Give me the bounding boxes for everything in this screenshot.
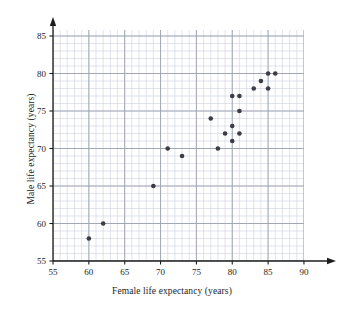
plot-area: 556065707580859055606570758085 (0, 0, 344, 315)
data-point (223, 131, 228, 136)
data-point (165, 146, 170, 151)
y-tick-label: 60 (37, 219, 47, 229)
scatter-chart: 556065707580859055606570758085 Female li… (0, 0, 344, 315)
x-tick-label: 60 (84, 267, 94, 277)
y-tick-label: 65 (37, 181, 47, 191)
data-point (230, 94, 235, 99)
data-point (180, 154, 185, 159)
x-axis-title: Female life expectancy (years) (0, 286, 344, 296)
x-tick-label: 80 (228, 267, 238, 277)
y-tick-label: 85 (37, 31, 47, 41)
major-gridlines (53, 29, 304, 262)
y-tick-label: 80 (37, 69, 47, 79)
data-point (216, 146, 221, 151)
y-tick-label: 70 (37, 144, 47, 154)
y-axis-title: Male life expectancy (years) (26, 49, 36, 249)
axis-lines (50, 17, 336, 264)
data-point (273, 71, 278, 76)
y-tick-label: 75 (37, 106, 47, 116)
x-tick-label: 75 (192, 267, 202, 277)
data-point (230, 124, 235, 129)
data-point (87, 236, 92, 241)
data-point (259, 79, 264, 84)
data-point (208, 116, 213, 121)
data-point (251, 86, 256, 91)
data-point (237, 94, 242, 99)
data-point (266, 71, 271, 76)
x-tick-label: 55 (49, 267, 59, 277)
x-tick-label: 85 (264, 267, 274, 277)
data-point (230, 139, 235, 144)
data-point (151, 184, 156, 189)
x-tick-label: 90 (299, 267, 309, 277)
x-tick-label: 70 (156, 267, 166, 277)
data-point (101, 221, 106, 226)
axis-ticks (49, 36, 304, 265)
data-point (237, 131, 242, 136)
x-tick-label: 65 (120, 267, 130, 277)
data-point (266, 86, 271, 91)
y-tick-label: 55 (37, 256, 47, 266)
data-point (237, 109, 242, 114)
minor-gridlines (53, 29, 304, 262)
